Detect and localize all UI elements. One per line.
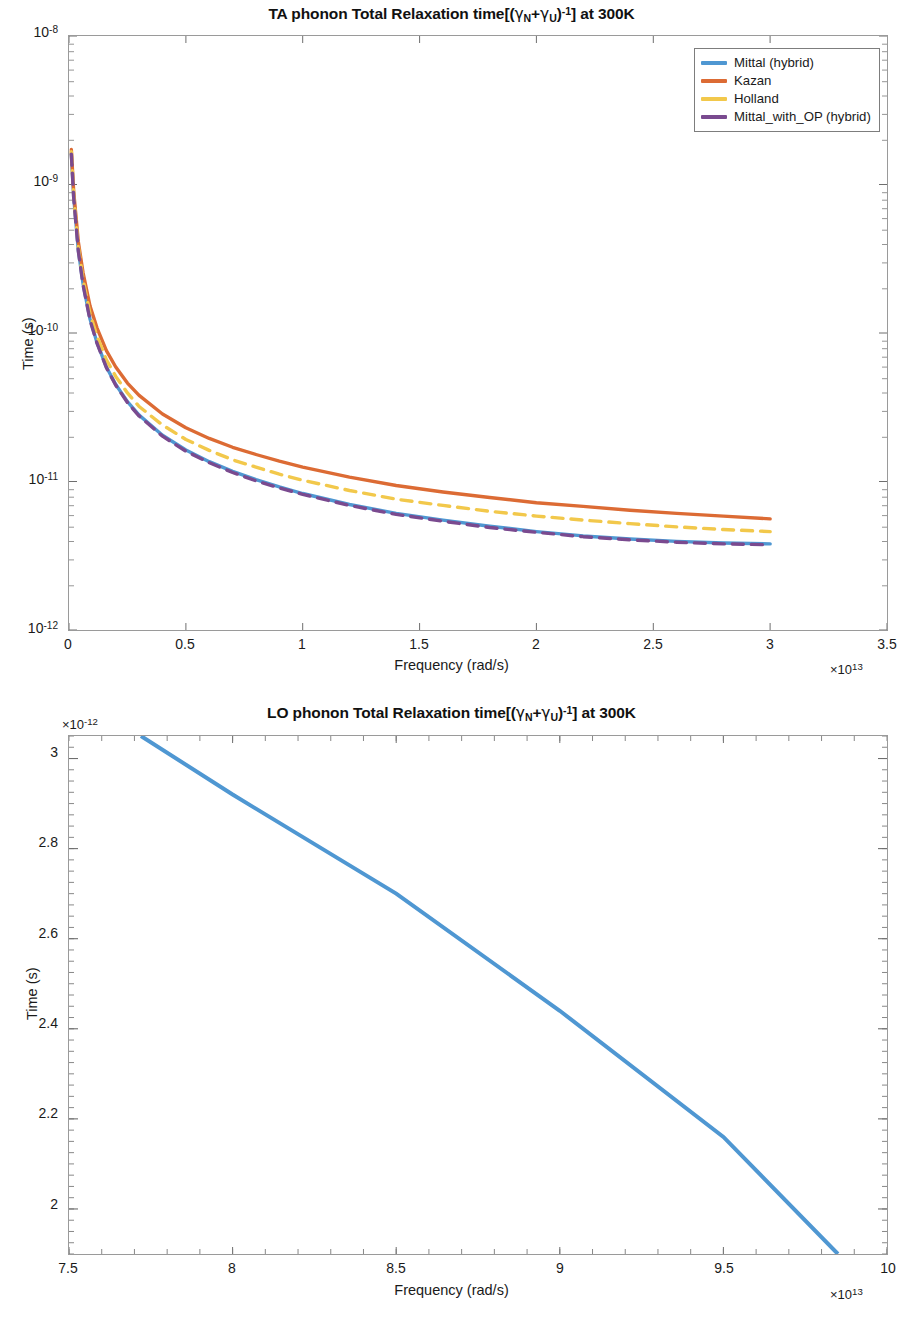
figure-ta-phonon: TA phonon Total Relaxation time[(γN+γU)-…	[0, 0, 903, 690]
y-tick-lo-3: 2.6	[10, 925, 58, 941]
x-tick-ta-5: 2.5	[623, 636, 683, 652]
legend-swatch-mittal-op	[701, 115, 727, 119]
gamma-u-symbol: γ	[540, 5, 549, 23]
chart-title-lo-prefix: LO phonon Total Relaxation time[(	[267, 704, 516, 721]
x-tick-lo-0: 7.5	[38, 1260, 98, 1276]
x-axis-label-lo: Frequency (rad/s)	[0, 1282, 903, 1298]
legend-swatch-holland	[701, 97, 727, 101]
chart-title-ta: TA phonon Total Relaxation time[(γN+γU)-…	[0, 5, 903, 24]
chart-title-ta-prefix: TA phonon Total Relaxation time[(	[268, 5, 514, 22]
legend-item-mittal[interactable]: Mittal (hybrid)	[701, 54, 871, 72]
ta-series-line-2	[71, 152, 770, 532]
chart-title-lo-suffix: ] at 300K	[572, 704, 636, 721]
chart-title-lo: LO phonon Total Relaxation time[(γN+γU)-…	[0, 704, 903, 723]
x-tick-lo-3: 9	[530, 1260, 590, 1276]
ta-series-line-3	[71, 154, 770, 545]
x-tick-lo-5: 10	[858, 1260, 903, 1276]
y-tick-lo-4: 2.8	[10, 834, 58, 850]
lo-curve-svg	[69, 736, 887, 1254]
x-tick-ta-4: 2	[506, 636, 566, 652]
x-tick-ta-7: 3.5	[857, 636, 903, 652]
legend-swatch-kazan	[701, 79, 727, 83]
y-tick-ta-3: 10-9	[0, 173, 58, 189]
gamma-n-symbol: γ	[515, 5, 524, 23]
plot-area-lo	[68, 735, 888, 1255]
gamma-n-symbol-lo: γ	[516, 704, 525, 722]
lo-series-group	[141, 736, 838, 1254]
y-tick-ta-1: 10-11	[0, 471, 58, 487]
x-tick-ta-3: 1.5	[389, 636, 449, 652]
legend-label-mittal-op: Mittal_with_OP (hybrid)	[734, 110, 871, 123]
legend-item-kazan[interactable]: Kazan	[701, 72, 871, 90]
y-tick-lo-5: 3	[10, 744, 58, 760]
ta-series-line-1	[71, 150, 770, 519]
x-tick-ta-2: 1	[272, 636, 332, 652]
y-axis-multiplier-lo: ×10-12	[62, 716, 98, 732]
legend-label-mittal: Mittal (hybrid)	[734, 56, 814, 69]
title-plus: +	[531, 5, 540, 22]
lo-series-line-0	[141, 736, 838, 1254]
title-exponent-lo: -1	[563, 704, 572, 716]
gamma-u-subscript-lo: U	[550, 711, 558, 723]
x-tick-lo-4: 9.5	[694, 1260, 754, 1276]
figure-lo-phonon: LO phonon Total Relaxation time[(γN+γU)-…	[0, 690, 903, 1335]
legend-ta[interactable]: Mittal (hybrid) Kazan Holland Mittal_wit…	[694, 48, 880, 132]
title-exponent: -1	[562, 5, 571, 17]
legend-label-kazan: Kazan	[734, 74, 771, 87]
ta-series-group	[71, 150, 770, 545]
x-axis-multiplier-lo: ×1013	[830, 1286, 863, 1302]
gamma-u-subscript: U	[549, 12, 557, 24]
ta-series-line-0	[71, 153, 770, 544]
legend-item-holland[interactable]: Holland	[701, 90, 871, 108]
y-axis-label-lo: Time (s)	[24, 967, 40, 1020]
x-tick-lo-1: 8	[202, 1260, 262, 1276]
y-tick-lo-1: 2.2	[10, 1105, 58, 1121]
gamma-n-subscript: N	[524, 12, 532, 24]
x-axis-label-ta: Frequency (rad/s)	[0, 657, 903, 673]
legend-item-mittal-op[interactable]: Mittal_with_OP (hybrid)	[701, 108, 871, 126]
y-tick-ta-0: 10-12	[0, 620, 58, 636]
x-tick-ta-6: 3	[740, 636, 800, 652]
chart-title-ta-suffix: ] at 300K	[571, 5, 635, 22]
x-tick-ta-1: 0.5	[155, 636, 215, 652]
legend-label-holland: Holland	[734, 92, 779, 105]
x-tick-lo-2: 8.5	[366, 1260, 426, 1276]
y-tick-lo-2: 2.4	[10, 1015, 58, 1031]
x-axis-multiplier-ta: ×1013	[830, 661, 863, 677]
y-tick-ta-4: 10-8	[0, 24, 58, 40]
y-tick-ta-2: 10-10	[0, 322, 58, 338]
x-tick-ta-0: 0	[38, 636, 98, 652]
legend-swatch-mittal	[701, 61, 727, 65]
y-tick-lo-0: 2	[10, 1196, 58, 1212]
